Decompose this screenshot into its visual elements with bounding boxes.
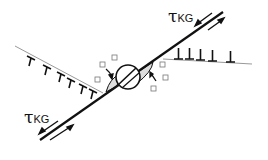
left-grain-boundary <box>15 46 103 93</box>
slip-band-diagram <box>0 0 268 160</box>
tau-kg-label-top: τKG <box>168 6 193 26</box>
tau-kg-label-bottom: τKG <box>24 107 49 127</box>
diagram: τKG τKG <box>0 0 268 160</box>
left-dislocations <box>27 56 97 99</box>
